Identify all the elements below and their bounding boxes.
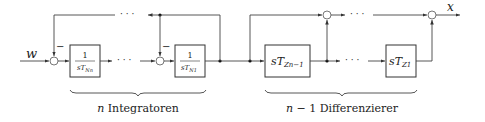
dots-main-2: · · · — [345, 55, 359, 65]
summing-junction-3 — [323, 11, 331, 19]
output-label: x — [447, 0, 454, 14]
minus-sign-1: − — [56, 41, 64, 52]
block-4-to-junction-4 — [416, 20, 432, 61]
brace-label-differentiators: n − 1 Differenzierer — [286, 102, 399, 115]
summing-junction-2 — [156, 57, 164, 65]
dots-top: · · · — [350, 9, 364, 19]
brace-integrators — [70, 90, 206, 96]
dots-main-1: · · · — [117, 55, 131, 65]
block-2-numerator: 1 — [187, 51, 192, 60]
minus-sign-2: − — [162, 41, 170, 52]
dots-feedback: · · · — [120, 9, 134, 19]
summing-junction-4 — [428, 11, 436, 19]
block-1-numerator: 1 — [82, 51, 87, 60]
brace-differentiators — [265, 90, 417, 96]
input-label: w — [26, 46, 37, 61]
summing-junction-1 — [50, 57, 58, 65]
brace-label-integrators: n Integratoren — [97, 102, 179, 115]
block-diagram: w − 1 sTNn · · · − 1 sTN1 · · · sTZn−1 ·… — [0, 0, 485, 122]
